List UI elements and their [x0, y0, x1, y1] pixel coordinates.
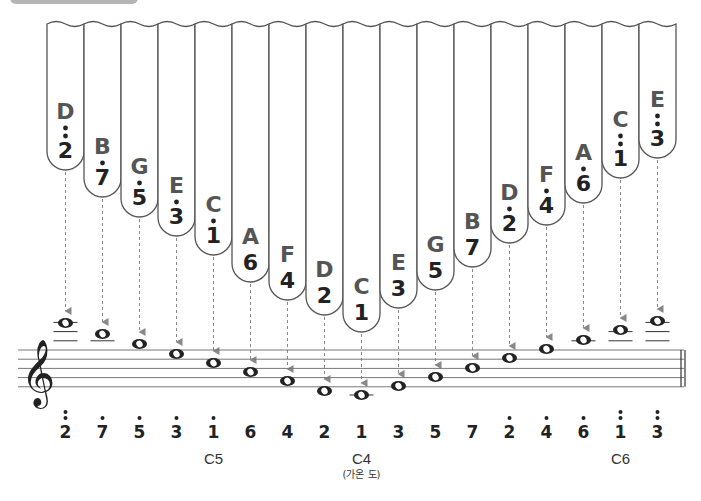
svg-text:5: 5	[430, 422, 442, 442]
tine-number: 3	[391, 276, 406, 301]
octave-dot	[619, 416, 623, 420]
octave-dot	[175, 416, 179, 420]
staff: 𝄞	[18, 338, 685, 409]
tine-number: 2	[502, 211, 517, 236]
tine-letter: E	[391, 250, 406, 275]
number-label: 1	[208, 416, 220, 442]
number-label: 4	[282, 422, 294, 442]
number-label: 2	[504, 416, 516, 442]
tine-e5: 3E	[158, 22, 195, 237]
note-a4	[243, 367, 258, 377]
tine-b5: 7B	[84, 22, 121, 198]
svg-text:3: 3	[171, 422, 183, 442]
tine-number: 1	[354, 300, 369, 325]
note-c6	[609, 325, 633, 341]
note-e4	[391, 381, 406, 391]
tine-letter: D	[500, 180, 518, 205]
tine-number: 1	[613, 146, 628, 171]
octave-dot	[212, 416, 216, 420]
octave-dot	[618, 134, 623, 139]
number-label: 1	[615, 410, 627, 442]
tines: 2D7B5G3E1C6A4F2D1C3E5G7B2D4F6A1C3E	[47, 22, 676, 333]
octave-dot	[174, 200, 179, 205]
octave-label-c5: C5	[204, 450, 223, 467]
tine-number: 5	[132, 185, 147, 210]
svg-text:6: 6	[578, 422, 590, 442]
octave-dot	[508, 416, 512, 420]
note-c4	[350, 390, 374, 400]
tine-c5: 1C	[195, 22, 232, 256]
number-label: 2	[319, 422, 331, 442]
tine-number: 1	[206, 223, 221, 248]
tine-letter: B	[94, 134, 111, 159]
tine-number: 2	[317, 283, 332, 308]
middle-c-note: (가온 도)	[343, 469, 381, 480]
tine-g4: 5G	[417, 22, 454, 291]
svg-text:6: 6	[245, 422, 257, 442]
note-g4	[428, 372, 443, 382]
tine-number: 5	[428, 258, 443, 283]
tine-f4: 4F	[269, 22, 306, 301]
note-c5	[206, 358, 221, 368]
note-b5	[91, 329, 115, 341]
number-label: 6	[578, 416, 590, 442]
octave-dot	[656, 410, 660, 414]
tine-c4: 1C	[343, 22, 380, 333]
tine-number: 4	[280, 268, 295, 293]
svg-text:2: 2	[504, 422, 516, 442]
svg-text:7: 7	[467, 422, 479, 442]
octave-dot	[63, 126, 68, 131]
treble-clef-icon: 𝄞	[21, 338, 55, 409]
octave-dot	[619, 410, 623, 414]
note-d5	[502, 353, 517, 363]
tine-g5: 5G	[121, 22, 158, 218]
number-label: 7	[467, 422, 479, 442]
number-label: 7	[97, 416, 109, 442]
tine-number: 2	[58, 138, 73, 163]
note-d4	[317, 386, 332, 396]
svg-text:2: 2	[60, 422, 72, 442]
octave-dot	[655, 122, 660, 127]
tine-letter: C	[612, 107, 628, 132]
note-a5	[572, 335, 596, 345]
note-b4	[465, 363, 480, 373]
octave-dot	[582, 416, 586, 420]
tine-letter: C	[353, 274, 369, 299]
tine-number: 6	[576, 171, 591, 196]
octave-dot	[64, 416, 68, 420]
number-labels: 27531642135724613	[60, 410, 664, 442]
note-e5	[169, 349, 184, 359]
octave-dot	[138, 416, 142, 420]
tine-number: 3	[650, 126, 665, 151]
tine-letter: F	[280, 242, 295, 267]
tine-number: 7	[95, 165, 110, 190]
tine-letter: D	[56, 99, 74, 124]
tine-letter: F	[539, 162, 554, 187]
note-g5	[132, 339, 147, 349]
octave-dot	[618, 142, 623, 147]
note-e6	[646, 316, 670, 341]
svg-text:C4: C4	[352, 450, 371, 467]
tine-number: 6	[243, 250, 258, 275]
svg-text:3: 3	[393, 422, 405, 442]
octave-dot	[581, 167, 586, 172]
tine-a5: 6A	[565, 22, 602, 204]
svg-text:1: 1	[208, 422, 220, 442]
tine-letter: A	[575, 140, 592, 165]
number-label: 5	[430, 422, 442, 442]
octave-dot	[545, 416, 549, 420]
number-label: 3	[393, 422, 405, 442]
octave-dot	[63, 134, 68, 139]
tine-letter: E	[650, 87, 665, 112]
octave-dot	[655, 114, 660, 119]
tine-letter: E	[169, 173, 184, 198]
octave-labels: C5C4(가온 도)C6	[204, 450, 630, 480]
octave-dot	[656, 416, 660, 420]
tine-f5: 4F	[528, 22, 565, 226]
octave-dot	[100, 161, 105, 166]
octave-dot	[64, 410, 68, 414]
octave-label-c4: C4(가온 도)	[343, 450, 381, 480]
tine-e6: 3E	[639, 22, 676, 159]
note-f5	[539, 344, 554, 354]
number-label: 5	[134, 416, 146, 442]
